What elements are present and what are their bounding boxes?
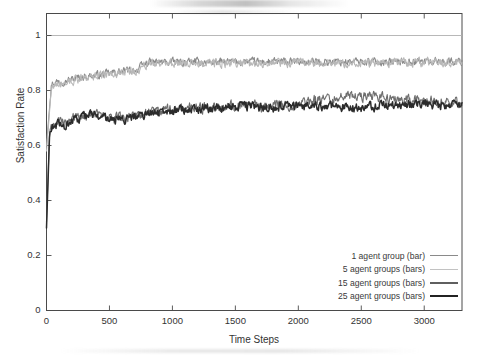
x-tick-label: 1500 xyxy=(215,315,255,326)
legend-label: 15 agent groups (bars) xyxy=(338,278,425,288)
x-axis-title: Time Steps xyxy=(46,334,462,345)
y-tick-label: 0.4 xyxy=(11,194,41,205)
y-tick-label: 0.8 xyxy=(11,84,41,95)
y-tick-label: 0 xyxy=(11,304,41,315)
x-tick-label: 500 xyxy=(89,315,129,326)
y-tick-label: 1 xyxy=(11,29,41,40)
legend-label: 25 agent groups (bars) xyxy=(338,291,425,301)
legend-item-15-agent-groups: 15 agent groups (bars) xyxy=(330,276,458,290)
legend-line-swatch xyxy=(430,255,458,256)
x-tick-label: 1000 xyxy=(152,315,192,326)
legend-item-5-agent-groups: 5 agent groups (bars) xyxy=(330,263,458,277)
x-tick-label: 3000 xyxy=(404,315,444,326)
x-tick-label: 2000 xyxy=(278,315,318,326)
chart-figure: Satisfaction Rate Time Steps 00.20.40.60… xyxy=(0,0,478,356)
x-tick-label: 2500 xyxy=(341,315,381,326)
series-line-3 xyxy=(47,91,463,222)
y-tick-label: 0.2 xyxy=(11,249,41,260)
legend-line-swatch xyxy=(430,295,458,297)
legend-label: 1 agent group (bar) xyxy=(351,251,425,261)
legend-label: 5 agent groups (bars) xyxy=(343,264,425,274)
x-tick-label: 0 xyxy=(27,315,67,326)
legend-line-swatch xyxy=(430,269,458,270)
legend-line-swatch xyxy=(430,282,458,284)
legend-item-25-agent-groups: 25 agent groups (bars) xyxy=(330,290,458,304)
chart-legend: 1 agent group (bar) 5 agent groups (bars… xyxy=(330,249,458,303)
y-tick-label: 0.6 xyxy=(11,139,41,150)
legend-item-1-agent-group: 1 agent group (bar) xyxy=(330,249,458,263)
